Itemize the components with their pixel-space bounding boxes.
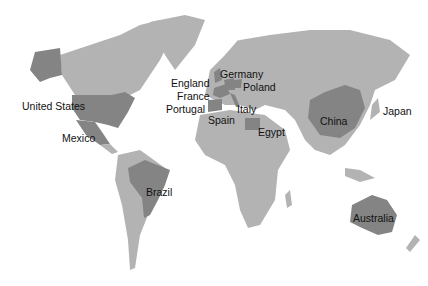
- alaska[interactable]: [30, 48, 62, 82]
- label-england: England: [171, 78, 210, 89]
- label-italy: Italy: [237, 104, 256, 115]
- label-australia: Australia: [353, 213, 394, 224]
- world-map: United States Mexico England France Port…: [0, 0, 428, 286]
- poland-shape[interactable]: [234, 79, 242, 88]
- label-spain: Spain: [208, 115, 235, 126]
- label-china: China: [320, 116, 347, 127]
- label-japan: Japan: [383, 106, 412, 117]
- label-united-states: United States: [22, 101, 85, 112]
- label-germany: Germany: [220, 69, 263, 80]
- spain-shape[interactable]: [208, 99, 222, 112]
- label-poland: Poland: [243, 82, 276, 93]
- label-portugal: Portugal: [166, 104, 205, 115]
- label-mexico: Mexico: [62, 133, 95, 144]
- japan-shape[interactable]: [370, 98, 380, 120]
- label-brazil: Brazil: [146, 187, 172, 198]
- label-france: France: [177, 91, 210, 102]
- label-egypt: Egypt: [258, 127, 285, 138]
